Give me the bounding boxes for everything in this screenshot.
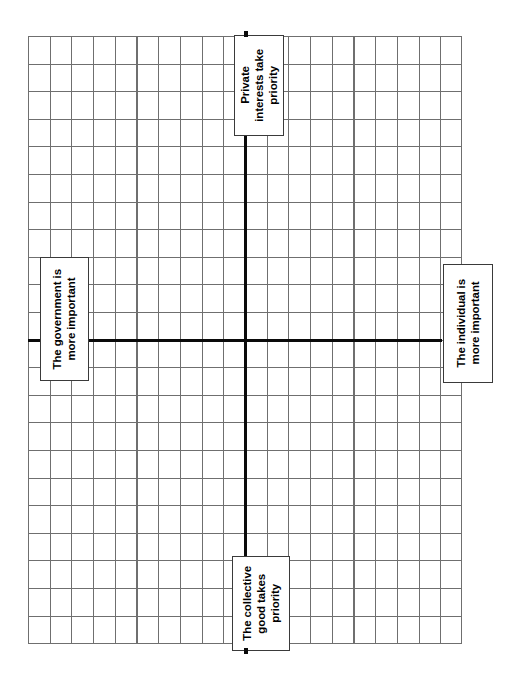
axis-label-top-text: Private interests take priority [238,49,280,122]
vertical-axis-bottom-cap [244,648,248,654]
axis-label-left-text: The government is more important [50,269,78,370]
axis-label-bottom-collective-good[interactable]: The collective good takes priority [232,556,290,651]
axis-label-left-government[interactable]: The government is more important [40,257,89,381]
axis-label-top-private-interests[interactable]: Private interests take priority [234,35,284,136]
axis-label-bottom-text: The collective good takes priority [240,566,282,641]
axis-label-right-text: The individual is more important [454,279,482,367]
horizontal-axis-line [28,339,442,342]
vertical-axis-top-cap [244,31,248,37]
compass-diagram-canvas: Private interests take priority The coll… [0,0,514,677]
axis-label-right-individual[interactable]: The individual is more important [443,264,493,383]
